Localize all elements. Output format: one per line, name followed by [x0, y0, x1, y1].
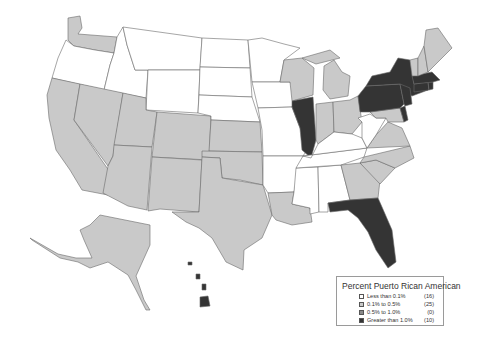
legend-title: Percent Puerto Rican American [342, 281, 461, 291]
state-florida [328, 198, 396, 268]
legend-row-greater-than-1-0: Greater than 1.0% (10) [359, 316, 434, 324]
state-wyoming [146, 70, 200, 113]
state-kansas [209, 120, 262, 152]
state-pennsylvania [358, 84, 404, 112]
legend-label: 0.1% to 0.5% [367, 301, 420, 307]
legend-count: (16) [420, 293, 434, 299]
state-new-mexico [148, 157, 202, 212]
state-rhode-island [428, 82, 433, 90]
legend-row-0-1-to-0-5: 0.1% to 0.5% (25) [359, 300, 434, 308]
legend-count: (0) [420, 309, 434, 315]
legend-count: (25) [420, 301, 434, 307]
legend-label: 0.5% to 1.0% [367, 309, 420, 315]
legend-swatch-dark [359, 318, 364, 323]
state-hawaii [188, 262, 210, 307]
state-maine [424, 28, 452, 72]
legend-row-less-than-0-1: Less than 0.1% (16) [359, 292, 434, 300]
legend-label: Less than 0.1% [367, 293, 420, 299]
state-north-dakota [200, 38, 250, 68]
legend-swatch-white [359, 294, 364, 299]
state-montana [123, 27, 202, 70]
legend-count: (10) [420, 317, 434, 323]
legend-swatch-light-gray [359, 302, 364, 307]
map-legend: Percent Puerto Rican American Less than … [336, 276, 444, 326]
legend-row-0-5-to-1-0: 0.5% to 1.0% (0) [359, 308, 434, 316]
state-ohio [333, 96, 362, 134]
state-alaska [30, 215, 150, 310]
state-south-dakota [199, 67, 252, 97]
legend-swatch-mid-gray [359, 310, 364, 315]
legend-label: Greater than 1.0% [367, 317, 420, 323]
